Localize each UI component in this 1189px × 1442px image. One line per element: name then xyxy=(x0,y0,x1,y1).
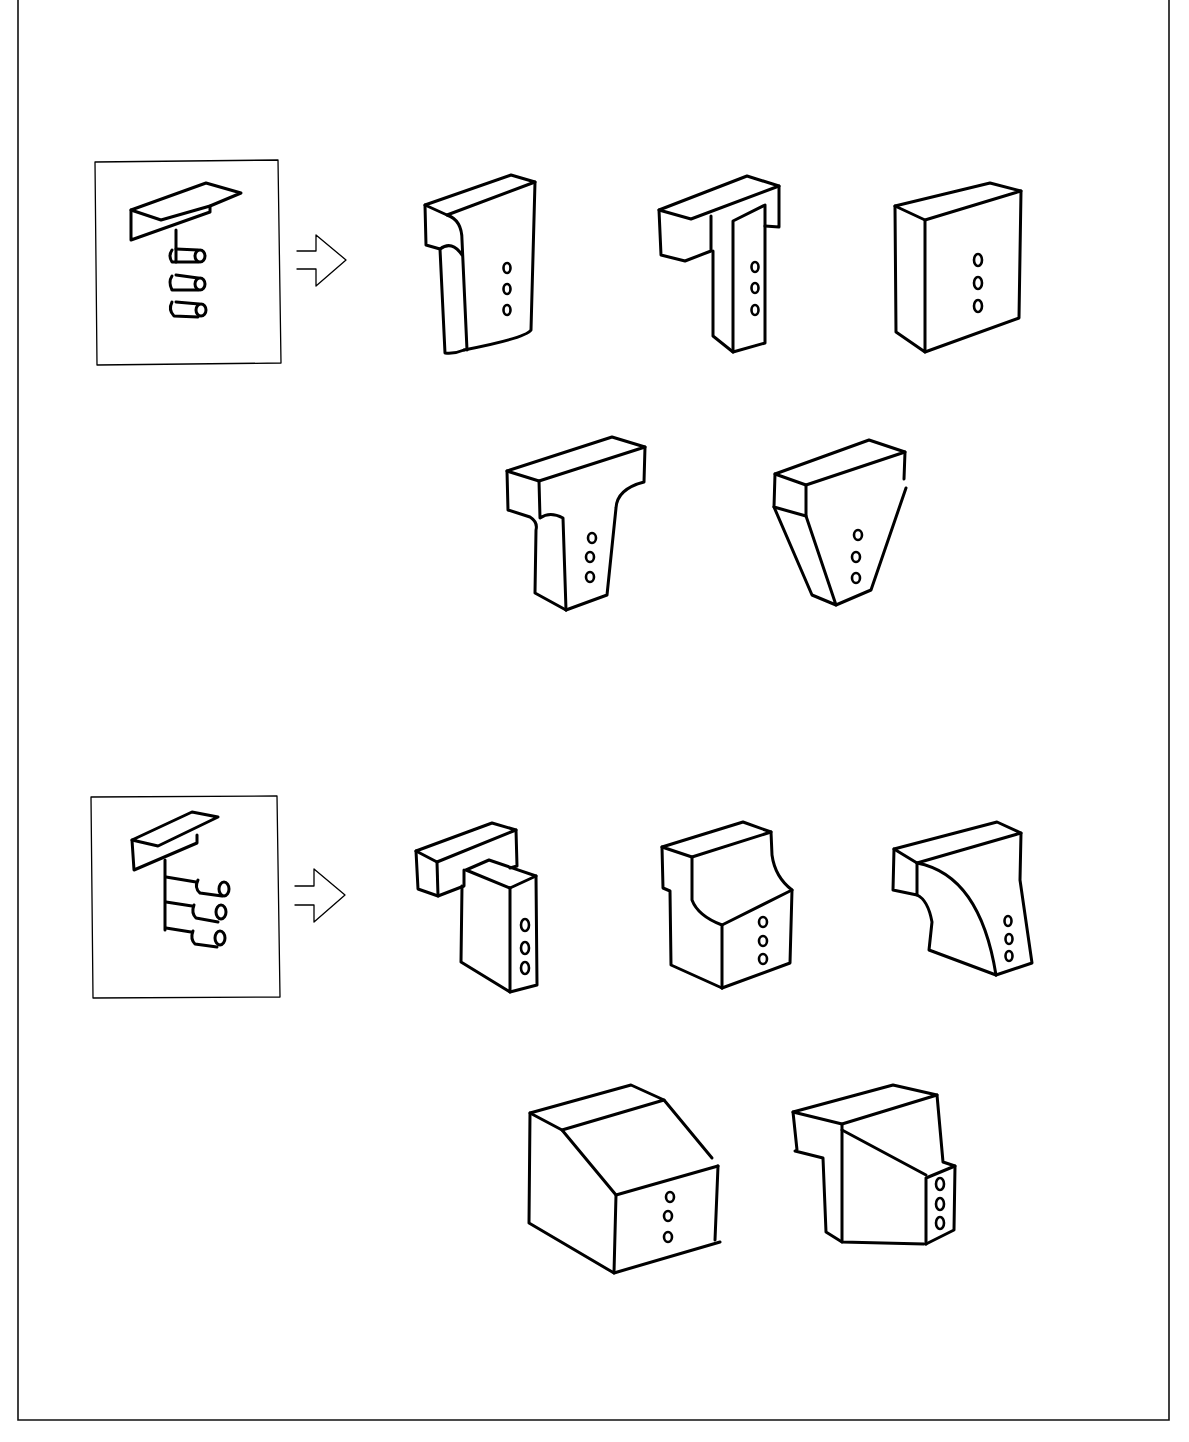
sketch-sheet xyxy=(0,0,1189,1442)
pipe-icon xyxy=(170,302,206,317)
variant-1-4 xyxy=(507,437,645,610)
variant-2-2 xyxy=(662,822,792,988)
variant-1-1 xyxy=(425,175,535,353)
variant-1-5 xyxy=(774,440,906,605)
row-2 xyxy=(91,796,1032,1273)
variant-2-5 xyxy=(793,1085,955,1244)
source-diagram-stacked-pipes xyxy=(95,160,281,365)
pipe-icon xyxy=(166,902,226,922)
row-1 xyxy=(95,160,1021,610)
variant-1-3 xyxy=(895,183,1021,352)
variant-2-1 xyxy=(416,823,537,992)
variant-2-4 xyxy=(529,1085,720,1273)
right-arrow-icon xyxy=(295,869,345,922)
pipe-icon xyxy=(170,275,205,290)
variant-2-3 xyxy=(893,822,1032,975)
pipe-icon xyxy=(166,928,225,947)
variant-1-2 xyxy=(659,176,779,352)
pipe-icon xyxy=(166,877,229,896)
right-arrow-icon xyxy=(297,235,346,286)
source-diagram-horizontal-pipes xyxy=(91,796,280,998)
